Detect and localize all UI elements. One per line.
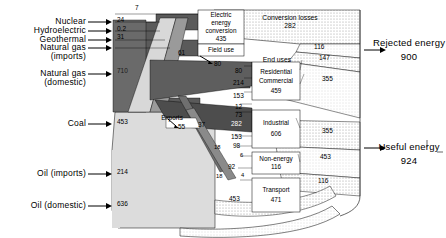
output-value-useful-energy: 924 [372,156,446,166]
flow-value-6: 6 [240,152,243,158]
residential-commercial-value: 459 [252,87,300,95]
source-value-natural-gas-domestic: 710 [117,68,128,75]
flow-value-61: 61 [178,50,185,57]
source-label-natural-gas-domestic-sub: (domestic) [0,78,86,87]
sankey-diagram-root: Nuclear Hydroelectric Geothermal Natural… [0,0,446,238]
conversion-losses-label: Conversion losses [230,14,350,22]
exports-label: Exports [152,114,192,122]
source-value-oil-imports: 214 [117,169,128,176]
box-industrial [252,110,300,148]
output-arrows [364,47,386,151]
flow-value-153a: 153 [233,93,244,100]
residential-commercial-line1: Residential [252,68,300,76]
source-arrowheads [106,19,112,209]
source-value-coal: 453 [117,119,128,126]
industrial-label: Industrial [252,119,300,127]
rejected-split-355: 355 [322,76,333,83]
flow-value-282: 282 [231,121,242,128]
flow-value-18b: 18 [216,173,222,179]
output-label-rejected-energy: Rejected energy [372,38,446,48]
useful-split-355: 355 [322,128,333,135]
flow-value-37: 37 [198,122,205,129]
field-use-value: 80 [214,61,221,68]
transport-value: 471 [252,196,300,204]
flow-value-92: 92 [228,164,235,171]
source-value-oil-domestic: 636 [117,201,128,208]
end-uses-header: End uses [250,56,304,64]
flow-value-98: 98 [233,143,240,150]
source-value-geothermal: 0.2 [117,26,126,33]
flow-value-453b: 453 [229,196,240,203]
useful-split-116: 116 [318,178,328,185]
field-use-label: Field use [198,46,244,54]
output-label-useful-energy: Useful energy [372,142,446,152]
source-label-natural-gas-imports-sub: (imports) [0,52,86,61]
source-value-natural-gas-imports: 31 [117,34,124,41]
electric-conversion-value: 435 [198,35,244,43]
flow-value-18a: 18 [214,144,220,150]
non-energy-label: Non-energy [250,155,302,163]
transport-label: Transport [252,186,300,194]
source-value-nuclear: 7 [135,5,139,12]
exports-value: 55 [178,124,185,131]
conversion-losses-value: 282 [230,22,350,30]
source-arrows [88,22,108,206]
source-label-oil-domestic: Oil (domestic) [0,201,86,210]
box-transport [252,178,300,212]
flow-value-153b: 153 [231,134,242,141]
source-label-oil-imports: Oil (imports) [0,169,86,178]
flow-value-80: 80 [235,68,242,75]
source-value-hydroelectric: 24 [117,17,124,24]
industrial-value: 606 [252,130,300,138]
flow-value-214: 214 [233,80,244,87]
output-value-rejected-energy: 900 [372,52,446,62]
rejected-split-147: 147 [319,55,330,62]
rejected-split-116: 116 [314,44,324,51]
residential-commercial-line2: Commercial [252,77,300,85]
source-label-coal: Coal [0,119,86,128]
flow-value-73: 73 [235,112,242,119]
useful-split-453: 453 [320,154,331,161]
flow-value-4: 4 [241,172,244,178]
flow-value-12: 12 [235,104,242,111]
non-energy-value: 116 [252,163,300,171]
